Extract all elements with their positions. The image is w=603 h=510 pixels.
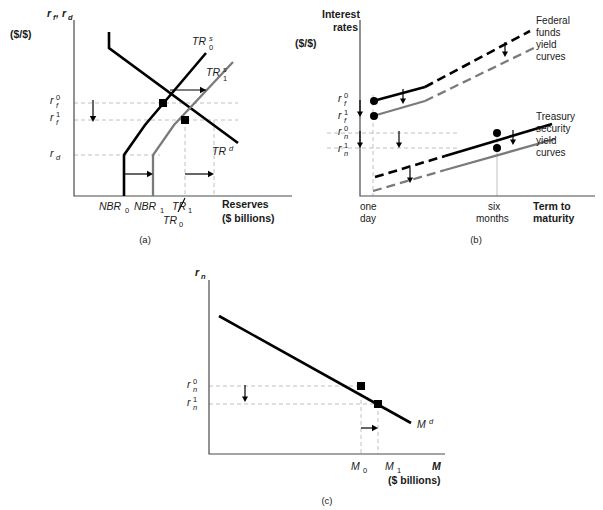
svg-text:s: s [223, 65, 227, 74]
panel-b: Interest rates ($/$) r0f r1f r0n r1n one… [290, 0, 603, 255]
panel-b-y-title-line1: Interest [322, 8, 360, 20]
arrow-c-money-right [361, 425, 378, 431]
xtick-c-m1: M1 [385, 460, 401, 475]
svg-text:r: r [195, 266, 200, 278]
svg-text:0: 0 [209, 43, 213, 52]
panel-a-x-units: ($ billions) [222, 212, 275, 224]
svg-text:TR: TR [172, 200, 186, 212]
svg-text:r: r [187, 396, 191, 408]
svg-text:n: n [193, 385, 197, 394]
svg-text:M: M [385, 460, 394, 472]
panel-a-caption: (a) [139, 234, 151, 245]
svg-text:n: n [193, 403, 197, 412]
point-rf0 [370, 97, 378, 105]
svg-text:f: f [56, 101, 59, 110]
panel-a-y-title: r f , r d [47, 7, 73, 22]
svg-text:d: d [68, 13, 73, 22]
panel-c-x-units: ($ billions) [388, 474, 441, 486]
panel-c-axes [209, 280, 445, 454]
svg-text:curves: curves [536, 147, 565, 158]
svg-text:,: , [55, 7, 59, 19]
svg-text:d: d [56, 153, 61, 162]
panel-c-x-title: M [432, 460, 441, 472]
svg-text:NBR: NBR [99, 200, 122, 212]
svg-text:n: n [344, 149, 348, 158]
panel-c-y-title: rn [195, 266, 206, 281]
point-rf1 [370, 112, 378, 120]
xtick-tr0: TR0 [163, 214, 183, 229]
svg-text:curves: curves [536, 51, 565, 62]
ytick-b-rn0: r0n [338, 124, 348, 141]
svg-text:1: 1 [223, 74, 227, 83]
arrow-nbr-shift [124, 171, 153, 177]
svg-text:n: n [344, 132, 348, 141]
point-rn1 [493, 144, 501, 152]
curve-ff0-dashed [425, 31, 530, 87]
svg-text:0: 0 [125, 206, 129, 215]
svg-text:NBR: NBR [134, 200, 157, 212]
svg-text:TR: TR [206, 66, 220, 78]
svg-text:r: r [187, 378, 191, 390]
point-c-0 [357, 382, 365, 390]
annotation-treasury-security: Treasury security yield curves [536, 111, 575, 158]
svg-text:funds: funds [536, 27, 560, 38]
svg-text:1: 1 [188, 206, 192, 215]
panel-a-x-title: Reserves [222, 198, 269, 210]
curve-label-trs0: TRs0 [192, 34, 213, 52]
arrow-rn-down-mid [396, 131, 402, 148]
curve-label-md: Md [417, 417, 434, 430]
arrow-rf-down [357, 100, 363, 117]
svg-text:s: s [209, 34, 213, 43]
arrow-rn-down [357, 131, 363, 148]
xtick-b-sixmonths-line2: months [476, 213, 509, 224]
curve-ff1-solid [373, 101, 425, 116]
arrow-tr-shift [185, 171, 214, 177]
panel-c: rn r0n r1n M0 M1 Md M ($ billions) (c) [145, 258, 465, 508]
point-rn0 [493, 129, 501, 137]
xtick-nbr0: NBR0 [99, 200, 129, 215]
xtick-b-sixmonths-line1: six [488, 201, 500, 212]
svg-text:Federal: Federal [536, 15, 570, 26]
ytick-c-rn0: r0n [187, 377, 197, 394]
panel-a-y-units: ($/$) [10, 28, 32, 40]
panel-b-y-units: ($/$) [295, 37, 317, 49]
svg-text:n: n [201, 272, 206, 281]
ytick-rf1: r1f [50, 110, 60, 127]
svg-text:M: M [351, 460, 360, 472]
xtick-b-oneday-line2: day [360, 213, 376, 224]
panel-b-x-title-line1: Term to [533, 200, 571, 212]
ytick-b-rn1: r1n [338, 141, 348, 158]
panel-b-y-title-line2: rates [333, 21, 358, 33]
xtick-nbr1: NBR1 [134, 200, 164, 215]
curve-md [219, 316, 411, 423]
annotation-federal-funds: Federal funds yield curves [536, 15, 570, 62]
svg-text:M: M [417, 418, 426, 430]
svg-text:TR: TR [192, 35, 206, 47]
xtick-b-oneday-line1: one [360, 201, 377, 212]
equilibrium-point-1 [181, 116, 189, 124]
svg-text:0: 0 [363, 466, 367, 475]
curve-label-trd: TRd [212, 144, 234, 157]
ytick-rf0: r0f [50, 93, 60, 110]
svg-text:r: r [338, 92, 342, 104]
figure-root: r f , r d ($/$) r0f r1f rd NBR0 NBR1 TR1… [0, 0, 603, 510]
svg-text:yield: yield [536, 135, 557, 146]
svg-text:r: r [338, 109, 342, 121]
svg-text:r: r [50, 94, 54, 106]
panel-b-caption: (b) [470, 234, 482, 245]
panel-b-x-title-line2: maturity [533, 212, 575, 224]
svg-text:d: d [429, 417, 434, 426]
svg-text:r: r [50, 111, 54, 123]
svg-text:TR: TR [163, 214, 177, 226]
svg-text:0: 0 [179, 220, 183, 229]
panel-a: r f , r d ($/$) r0f r1f rd NBR0 NBR1 TR1… [0, 0, 300, 255]
svg-text:r: r [47, 7, 52, 19]
ytick-b-rf0: r0f [338, 91, 348, 108]
svg-text:TR: TR [212, 145, 226, 157]
point-c-1 [374, 400, 382, 408]
ytick-c-rn1: r1n [187, 395, 197, 412]
curve-ff1-dashed [425, 46, 538, 101]
equilibrium-point-0 [159, 99, 167, 107]
xtick-tr1: TR1 [172, 200, 192, 215]
panel-c-caption: (c) [321, 495, 332, 506]
